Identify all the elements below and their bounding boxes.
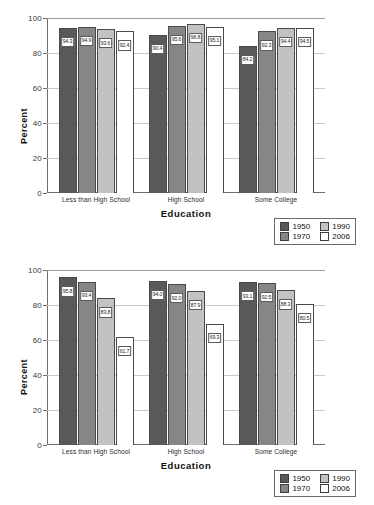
bar-value-label: 94.5 [298, 37, 312, 47]
y-tick-label: 40 [33, 119, 42, 128]
y-tick-label: 80 [33, 49, 42, 58]
bar-value-label: 94.9 [80, 36, 94, 46]
bar: 83.8 [97, 298, 115, 445]
y-tick-label: 80 [33, 301, 42, 310]
chart-top: Percent 020406080100 94.394.993.692.490.… [0, 0, 374, 252]
legend-swatch-icon [280, 232, 289, 241]
y-tick-label: 0 [37, 189, 42, 198]
y-tick-label: 60 [33, 84, 42, 93]
y-tick-label: 100 [28, 266, 42, 275]
y-tick-label: 100 [28, 14, 42, 23]
bar-value-label: 69.3 [208, 333, 222, 343]
bar: 88.3 [277, 290, 295, 445]
bar: 93.4 [78, 282, 96, 445]
y-tick-label: 20 [33, 406, 42, 415]
x-tick-labels-top: Less than High SchoolHigh SchoolSome Col… [47, 196, 325, 203]
legend-label: 1970 [292, 232, 310, 241]
bar: 95.8 [59, 277, 77, 445]
y-tick-label: 40 [33, 371, 42, 380]
bar-value-label: 94.3 [61, 37, 75, 47]
bar: 87.9 [187, 291, 205, 445]
bar-value-label: 94.4 [279, 37, 293, 47]
x-tick-label: Some College [238, 196, 314, 203]
bar: 92.3 [258, 31, 276, 193]
legend-label: 2006 [332, 232, 350, 241]
bar-group: 95.893.483.861.7 [58, 270, 134, 445]
legend-swatch-icon [280, 222, 289, 231]
bar-value-label: 92.4 [118, 40, 132, 50]
bar: 93.6 [97, 29, 115, 193]
bar: 94.0 [149, 281, 167, 446]
bar-value-label: 96.8 [189, 33, 203, 43]
bar: 92.5 [258, 283, 276, 445]
legend-swatch-icon [320, 232, 329, 241]
legend-item-2006: 2006 [320, 484, 350, 493]
y-tick-mark [43, 445, 47, 446]
bar: 90.4 [149, 35, 167, 193]
x-tick-label: Less than High School [58, 448, 134, 455]
bar-group: 84.292.394.494.5 [238, 18, 314, 193]
bar: 95.1 [206, 27, 224, 193]
bar: 96.8 [187, 24, 205, 193]
bar: 84.2 [239, 46, 257, 193]
bar: 92.4 [116, 31, 134, 193]
legend-label: 1950 [292, 474, 310, 483]
x-tick-label: High School [148, 448, 224, 455]
bar-value-label: 83.8 [99, 307, 113, 317]
y-axis-label-top: Percent [19, 108, 29, 144]
legend-swatch-icon [280, 474, 289, 483]
legend-label: 2006 [332, 484, 350, 493]
bar: 94.5 [296, 28, 314, 193]
legend-swatch-icon [320, 222, 329, 231]
legend-label: 1990 [332, 222, 350, 231]
bar-group: 94.394.993.692.4 [58, 18, 134, 193]
legend-item-1970: 1970 [280, 484, 310, 493]
bar-value-label: 88.3 [279, 299, 293, 309]
chart-bottom: Percent 020406080100 95.893.483.861.794.… [0, 252, 374, 502]
y-tick-label: 60 [33, 336, 42, 345]
bar: 94.3 [59, 28, 77, 193]
bar: 61.7 [116, 337, 134, 445]
legend-label: 1970 [292, 484, 310, 493]
bar-value-label: 95.8 [61, 286, 75, 296]
plot-area-top: 020406080100 94.394.993.692.490.495.696.… [47, 18, 325, 193]
legend-item-1970: 1970 [280, 232, 310, 241]
bar-value-label: 93.1 [241, 291, 255, 301]
legend-swatch-icon [280, 484, 289, 493]
bar-value-label: 84.2 [241, 55, 255, 65]
bar: 95.6 [168, 26, 186, 193]
bar-value-label: 92.3 [260, 40, 274, 50]
legend-label: 1950 [292, 222, 310, 231]
plot-area-bottom: 020406080100 95.893.483.861.794.092.087.… [47, 270, 325, 445]
x-tick-labels-bottom: Less than High SchoolHigh SchoolSome Col… [47, 448, 325, 455]
x-tick-label: Some College [238, 448, 314, 455]
legend-swatch-icon [320, 474, 329, 483]
bar-group: 90.495.696.895.1 [148, 18, 224, 193]
x-tick-label: High School [148, 196, 224, 203]
bar-value-label: 95.6 [170, 35, 184, 45]
bar-value-label: 61.7 [118, 346, 132, 356]
y-tick-mark [43, 193, 47, 194]
legend-item-1950: 1950 [280, 474, 310, 483]
bar-value-label: 92.5 [260, 292, 274, 302]
y-tick-label: 0 [37, 441, 42, 450]
bar-groups-bottom: 95.893.483.861.794.092.087.969.393.192.5… [47, 270, 325, 445]
legend-swatch-icon [320, 484, 329, 493]
bar-group: 94.092.087.969.3 [148, 270, 224, 445]
bar: 93.1 [239, 282, 257, 445]
bar-value-label: 87.9 [189, 300, 203, 310]
bar-value-label: 94.0 [151, 290, 165, 300]
bar-group: 93.192.588.380.5 [238, 270, 314, 445]
bar: 80.5 [296, 304, 314, 445]
legend-top: 1950199019702006 [274, 218, 356, 245]
y-axis-label-bottom: Percent [19, 359, 29, 395]
bar-value-label: 92.0 [170, 293, 184, 303]
legend-item-1950: 1950 [280, 222, 310, 231]
bar: 69.3 [206, 324, 224, 445]
legend-bottom: 1950199019702006 [274, 470, 356, 497]
bar-value-label: 90.4 [151, 44, 165, 54]
bar-groups-top: 94.394.993.692.490.495.696.895.184.292.3… [47, 18, 325, 193]
bar-value-label: 95.1 [208, 36, 222, 46]
legend-label: 1990 [332, 474, 350, 483]
bar: 92.0 [168, 284, 186, 445]
